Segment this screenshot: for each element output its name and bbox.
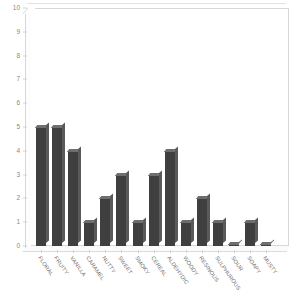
bar[interactable] bbox=[84, 222, 94, 246]
bar[interactable] bbox=[100, 198, 110, 246]
x-axis-tick-label: NUTTY bbox=[101, 255, 117, 274]
x-axis-tick-label: SOAPY bbox=[246, 255, 262, 275]
x-axis-tick-mark bbox=[218, 250, 219, 253]
y-axis-tick-mark bbox=[23, 174, 27, 175]
bar[interactable] bbox=[165, 151, 175, 246]
bar[interactable] bbox=[36, 127, 46, 246]
x-axis-tick-mark bbox=[73, 250, 74, 253]
y-axis-tick-mark bbox=[23, 31, 27, 32]
x-axis-tick-mark bbox=[202, 250, 203, 253]
y-axis-tick-mark bbox=[23, 150, 27, 151]
bar[interactable] bbox=[245, 222, 255, 246]
x-axis-tick-label: SWEET bbox=[118, 255, 135, 275]
bars-layer bbox=[30, 8, 289, 246]
y-axis-tick-label: 10 bbox=[13, 5, 20, 12]
x-axis-tick-label: SOUR bbox=[230, 255, 244, 272]
x-axis-tick-mark bbox=[105, 250, 106, 253]
x-axis-tick-mark bbox=[186, 250, 187, 253]
x-axis-tick-mark bbox=[250, 250, 251, 253]
y-axis-tick-label: 0 bbox=[16, 243, 20, 250]
y-axis-tick-mark bbox=[23, 8, 27, 9]
bar[interactable] bbox=[116, 175, 126, 246]
y-axis-tick-mark bbox=[23, 103, 27, 104]
x-axis-tick-mark bbox=[266, 250, 267, 253]
bar[interactable] bbox=[149, 175, 159, 246]
bar[interactable] bbox=[261, 244, 271, 246]
x-axis-tick-mark bbox=[89, 250, 90, 253]
bar[interactable] bbox=[68, 151, 78, 246]
y-axis-tick-label: 9 bbox=[16, 29, 20, 36]
x-axis-tick-label: SMOKY bbox=[134, 255, 151, 275]
y-axis-tick-mark bbox=[23, 222, 27, 223]
y-axis-tick-label: 1 bbox=[16, 219, 20, 226]
y-axis-tick-label: 6 bbox=[16, 100, 20, 107]
y-axis-tick-label: 3 bbox=[16, 171, 20, 178]
y-axis-tick-mark bbox=[23, 246, 27, 247]
x-axis-tick-mark bbox=[121, 250, 122, 253]
y-axis-tick-label: 7 bbox=[16, 76, 20, 83]
y-axis-tick-mark bbox=[23, 198, 27, 199]
x-axis-tick-mark bbox=[57, 250, 58, 253]
y-axis-tick-mark bbox=[23, 79, 27, 80]
y-axis-tick-label: 2 bbox=[16, 195, 20, 202]
x-axis-tick-mark bbox=[138, 250, 139, 253]
bar[interactable] bbox=[229, 244, 239, 246]
y-axis: 012345678910 bbox=[0, 8, 30, 248]
y-axis-tick-label: 8 bbox=[16, 52, 20, 59]
x-axis: FLORALFRUITYVANILLACARAMELNUTTYSWEETSMOK… bbox=[30, 250, 289, 307]
x-axis-tick-label: FRUITY bbox=[53, 255, 70, 275]
bar[interactable] bbox=[213, 222, 223, 246]
bar-chart: 012345678910 FLORALFRUITYVANILLACARAMELN… bbox=[0, 0, 294, 307]
bar[interactable] bbox=[181, 222, 191, 246]
y-axis-tick-mark bbox=[23, 127, 27, 128]
bar[interactable] bbox=[133, 222, 143, 246]
x-axis-tick-mark bbox=[41, 250, 42, 253]
x-axis-tick-mark bbox=[234, 250, 235, 253]
y-axis-tick-mark bbox=[23, 55, 27, 56]
bar[interactable] bbox=[52, 127, 62, 246]
x-axis-tick-mark bbox=[154, 250, 155, 253]
bar[interactable] bbox=[197, 198, 207, 246]
x-axis-tick-mark bbox=[170, 250, 171, 253]
y-axis-tick-label: 5 bbox=[16, 124, 20, 131]
y-axis-tick-label: 4 bbox=[16, 148, 20, 155]
x-axis-tick-label: MUSTY bbox=[262, 255, 278, 275]
